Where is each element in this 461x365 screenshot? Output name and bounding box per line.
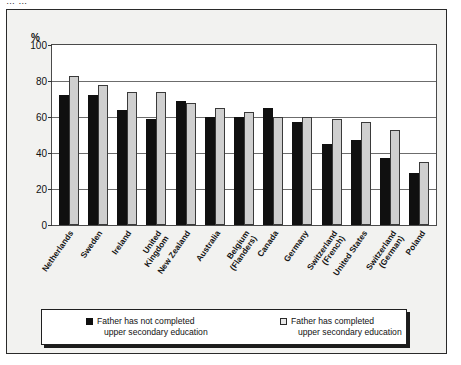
bar-father-not-completed <box>59 95 69 225</box>
bar-group <box>112 45 141 225</box>
cropped-caption-text: … … <box>6 0 126 6</box>
x-axis-labels: NetherlandsSwedenIrelandUnitedKingdomNew… <box>51 227 437 303</box>
y-axis-tick-label: 0 <box>41 220 47 231</box>
bar-father-not-completed <box>322 144 332 225</box>
x-axis-label: Canada <box>256 229 281 259</box>
bar-group <box>405 45 434 225</box>
bar-father-not-completed <box>292 122 302 225</box>
y-axis-tick-label: 40 <box>36 148 47 159</box>
x-axis-label: Poland <box>404 229 427 257</box>
bar-father-not-completed <box>409 173 419 225</box>
bar-father-completed <box>127 92 137 225</box>
legend-label: Father has completedupper secondary educ… <box>291 316 402 338</box>
x-axis-label: Sweden <box>79 229 104 260</box>
bar-father-completed <box>273 117 283 225</box>
y-axis-tick-label: 20 <box>36 184 47 195</box>
cropped-caption-strip: … … <box>6 0 126 7</box>
legend-swatch-dark-icon <box>86 318 93 325</box>
bar-father-completed <box>69 76 79 225</box>
bar-father-not-completed <box>205 117 215 225</box>
bar-father-not-completed <box>176 101 186 225</box>
bar-father-not-completed <box>380 158 390 225</box>
legend-item: Father has not completedupper secondary … <box>86 316 262 338</box>
legend-label: Father has not completedupper secondary … <box>97 316 208 338</box>
x-axis-label: Switzerland(German) <box>364 229 405 277</box>
bar-group <box>171 45 200 225</box>
x-axis-label: Germany <box>282 229 310 264</box>
chart-legend: Father has not completedupper secondary … <box>41 309 407 345</box>
bar-father-completed <box>390 130 400 225</box>
bar-father-not-completed <box>351 140 361 225</box>
bar-group <box>317 45 346 225</box>
bar-father-not-completed <box>263 108 273 225</box>
y-axis-tick-label: 60 <box>36 112 47 123</box>
x-axis-label: Belgium(Flanders) <box>221 229 259 272</box>
legend-swatch-light-icon <box>280 318 287 325</box>
bar-group <box>288 45 317 225</box>
bar-father-completed <box>156 92 166 225</box>
plot-area: 100806040200 <box>51 44 437 226</box>
bar-group <box>259 45 288 225</box>
y-axis-tick-label: 100 <box>30 40 47 51</box>
x-axis-label: Australia <box>194 229 222 263</box>
bar-father-completed <box>332 119 342 225</box>
bar-groups <box>52 45 436 225</box>
bar-father-completed <box>419 162 429 225</box>
bar-group <box>229 45 258 225</box>
figure-frame: % 100806040200 NetherlandsSwedenIrelandU… <box>6 9 447 354</box>
x-axis-label: Netherlands <box>40 229 75 273</box>
bar-father-completed <box>98 85 108 225</box>
bar-group <box>142 45 171 225</box>
bar-group <box>376 45 405 225</box>
y-axis-tick-mark <box>48 225 52 226</box>
bar-father-completed <box>244 112 254 225</box>
bar-father-completed <box>361 122 371 225</box>
bar-group <box>200 45 229 225</box>
plot-wrapper: 100806040200 <box>51 44 437 226</box>
bar-father-not-completed <box>117 110 127 225</box>
x-axis-label: Ireland <box>111 229 134 256</box>
bar-group <box>54 45 83 225</box>
bar-group <box>83 45 112 225</box>
legend-item: Father has completedupper secondary educ… <box>280 316 402 338</box>
bar-father-completed <box>215 108 225 225</box>
bar-father-completed <box>186 103 196 225</box>
bar-father-not-completed <box>146 119 156 225</box>
bar-father-not-completed <box>88 95 98 225</box>
bar-father-completed <box>302 117 312 225</box>
y-axis-tick-label: 80 <box>36 76 47 87</box>
bar-father-not-completed <box>234 117 244 225</box>
bar-group <box>346 45 375 225</box>
